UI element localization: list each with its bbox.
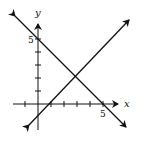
x-tick-label: 5 xyxy=(100,109,106,119)
y-axis-label: y xyxy=(34,7,41,18)
y-tick-label: 5 xyxy=(28,35,34,45)
increasing-line xyxy=(29,20,129,125)
x-axis-label: x xyxy=(124,98,130,109)
graph: y x 5 5 xyxy=(0,0,143,143)
decreasing-line xyxy=(15,16,126,127)
